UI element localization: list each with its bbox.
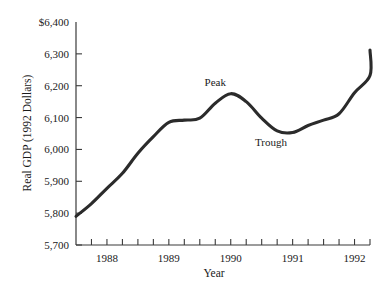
x-axis-group: 19881989199019911992 [76,239,370,264]
gdp-business-cycle-chart: 5,7005,8005,9006,0006,1006,2006,300$6,40… [0,0,380,291]
y-axis-title: Real GDP (1992 Dollars) [21,74,34,191]
x-axis-ticks [91,239,370,245]
x-tick-label: 1992 [344,252,366,264]
y-axis-tick-labels: 5,7005,8005,9006,0006,1006,2006,300$6,40… [39,16,70,251]
y-tick-label: 5,800 [44,207,69,219]
annotation-trough: Trough [255,136,287,148]
y-tick-label: 6,100 [44,112,69,124]
x-axis-title: Year [203,267,224,279]
annotation-peak: Peak [205,76,227,88]
chart-canvas: 5,7005,8005,9006,0006,1006,2006,300$6,40… [0,0,380,291]
y-tick-label: 6,000 [44,143,69,155]
x-axis-tick-labels: 19881989199019911992 [96,252,366,264]
x-tick-label: 1990 [220,252,243,264]
y-tick-label: 5,700 [44,239,69,251]
x-tick-label: 1988 [96,252,119,264]
x-tick-label: 1989 [158,252,181,264]
x-tick-label: 1991 [282,252,304,264]
y-tick-label: 5,900 [44,175,69,187]
y-tick-label: $6,400 [39,16,70,28]
annotation-group: PeakTrough [205,76,288,148]
y-tick-label: 6,200 [44,80,69,92]
y-tick-label: 6,300 [44,48,69,60]
